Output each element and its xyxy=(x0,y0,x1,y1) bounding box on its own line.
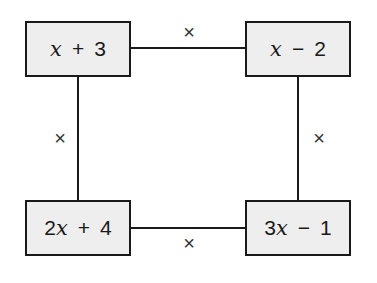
edge-top xyxy=(131,47,247,49)
expression-top-right: x − 2 xyxy=(270,37,326,61)
expression-bottom-right: 3x − 1 xyxy=(264,216,332,240)
edge-bottom xyxy=(131,227,247,229)
multiply-icon-right: × xyxy=(309,128,329,148)
multiply-icon-bottom: × xyxy=(179,233,199,253)
multiply-icon-left: × xyxy=(50,128,70,148)
box-bottom-right: 3x − 1 xyxy=(245,200,351,256)
multiply-icon-top: × xyxy=(179,22,199,42)
box-bottom-left: 2x + 4 xyxy=(25,200,131,256)
edge-left xyxy=(77,77,79,201)
box-top-left: x + 3 xyxy=(25,21,131,77)
expression-top-left: x + 3 xyxy=(50,37,106,61)
expression-bottom-left: 2x + 4 xyxy=(44,216,112,240)
edge-right xyxy=(297,77,299,201)
box-top-right: x − 2 xyxy=(245,21,351,77)
